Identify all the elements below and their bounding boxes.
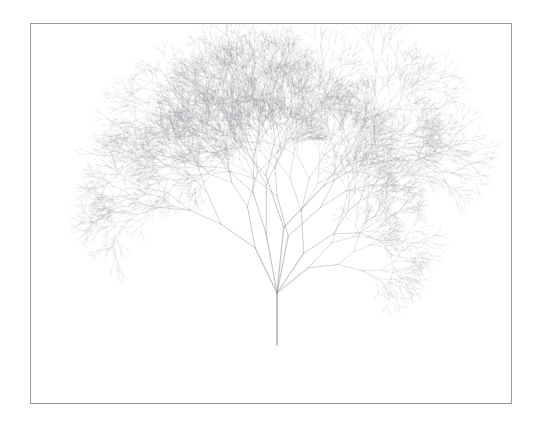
- canvas-frame: [30, 23, 512, 404]
- fractal-tree-canvas: [31, 24, 511, 403]
- figure-root: [0, 0, 542, 421]
